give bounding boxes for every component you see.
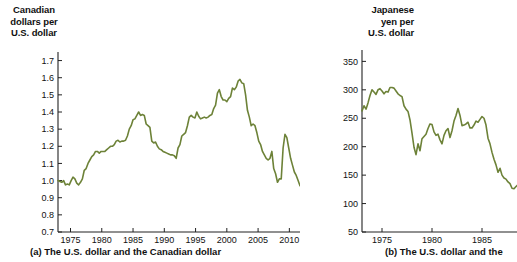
svg-text:1995: 1995 bbox=[186, 235, 206, 245]
svg-text:1980: 1980 bbox=[92, 235, 112, 245]
svg-text:1.1: 1.1 bbox=[41, 159, 54, 169]
svg-text:50: 50 bbox=[348, 227, 358, 237]
svg-text:150: 150 bbox=[343, 170, 358, 180]
svg-text:1.5: 1.5 bbox=[41, 90, 54, 100]
svg-text:1990: 1990 bbox=[154, 235, 174, 245]
caption-panel-b: (b) The U.S. dollar and the bbox=[385, 246, 503, 257]
svg-text:2005: 2005 bbox=[248, 235, 268, 245]
svg-text:1.6: 1.6 bbox=[41, 73, 54, 83]
chart-plot-canadian: 0.70.80.91.01.11.21.31.41.51.61.71975198… bbox=[0, 0, 300, 245]
svg-text:1980: 1980 bbox=[422, 235, 442, 245]
svg-text:1975: 1975 bbox=[60, 235, 80, 245]
svg-text:0.7: 0.7 bbox=[41, 227, 54, 237]
panel-japanese-yen: 501001502002503003501975198019851990 bbox=[300, 0, 517, 262]
svg-text:250: 250 bbox=[343, 113, 358, 123]
svg-text:1985: 1985 bbox=[472, 235, 492, 245]
y-axis-title-japanese: Japanese yen per U.S. dollar bbox=[352, 4, 414, 39]
svg-text:100: 100 bbox=[343, 199, 358, 209]
svg-text:1.2: 1.2 bbox=[41, 141, 54, 151]
exchange-rate-figure: Canadian dollars per U.S. dollar 0.70.80… bbox=[0, 0, 517, 262]
svg-text:300: 300 bbox=[343, 85, 358, 95]
svg-text:200: 200 bbox=[343, 142, 358, 152]
svg-text:1975: 1975 bbox=[372, 235, 392, 245]
svg-text:1.3: 1.3 bbox=[41, 124, 54, 134]
svg-text:1.7: 1.7 bbox=[41, 56, 54, 66]
svg-text:2010: 2010 bbox=[279, 235, 299, 245]
svg-text:1.4: 1.4 bbox=[41, 107, 54, 117]
svg-text:2000: 2000 bbox=[217, 235, 237, 245]
svg-text:350: 350 bbox=[343, 57, 358, 67]
svg-text:0.9: 0.9 bbox=[41, 193, 54, 203]
svg-text:1.0: 1.0 bbox=[41, 176, 54, 186]
caption-panel-a: (a) The U.S. dollar and the Canadian dol… bbox=[30, 246, 221, 257]
svg-text:1985: 1985 bbox=[123, 235, 143, 245]
panel-canadian-dollar: Canadian dollars per U.S. dollar 0.70.80… bbox=[0, 0, 300, 262]
svg-text:0.8: 0.8 bbox=[41, 210, 54, 220]
